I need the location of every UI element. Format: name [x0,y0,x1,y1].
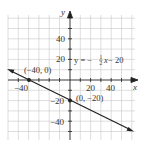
y-axis-label: y [60,7,65,17]
x-axis-label: x [132,82,137,92]
point-y-intercept [68,99,72,103]
y-tick-label: 20 [56,54,66,64]
point-x-intercept [27,78,31,82]
y-axis [68,11,73,140]
equation-frac-den: 2 [100,60,103,66]
graph: y x −40 20 40 40 20 −20 −40 y = − 1 2 x … [0,0,141,141]
equation-label: y = − 1 2 x − 20 [74,54,123,66]
y-tick-label: 40 [56,34,66,44]
x-tick-label: 40 [106,83,116,93]
point-label-x-intercept: (−40, 0) [24,65,52,75]
equation-tail: − 20 [108,55,123,65]
y-tick-label: −40 [50,117,65,127]
x-tick-label: −40 [14,83,29,93]
x-tick-label: 20 [86,83,96,93]
equation-lhs: y = − [74,55,92,65]
y-tick-label: −20 [50,96,65,106]
point-label-y-intercept: (0, −20) [76,93,104,103]
